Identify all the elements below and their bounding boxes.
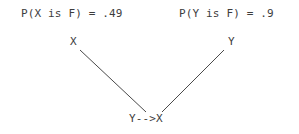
probability-y-label: P(Y is F) = .9 (179, 8, 274, 20)
diagram-canvas: P(X is F) = .49 P(Y is F) = .9 X Y Y-->X (0, 0, 299, 134)
node-x-label: X (70, 36, 77, 48)
node-y-label: Y (228, 36, 235, 48)
probability-x-label: P(X is F) = .49 (21, 8, 123, 20)
edge-x-to-result (80, 50, 146, 112)
node-result-label: Y-->X (129, 113, 163, 125)
edge-y-to-result (162, 50, 224, 112)
